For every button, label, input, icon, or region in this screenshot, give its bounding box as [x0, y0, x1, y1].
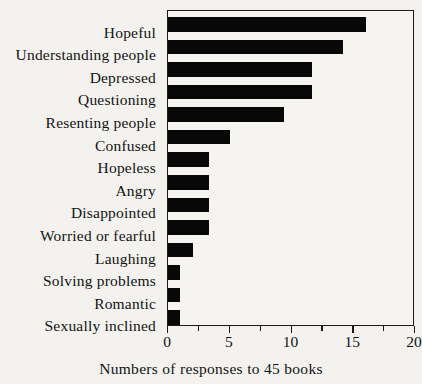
bar	[168, 175, 209, 190]
category-label: Disappointed	[71, 205, 156, 221]
x-tick-label: 5	[225, 334, 233, 350]
category-label: Questioning	[78, 92, 156, 108]
bar	[168, 198, 209, 213]
category-label: Understanding people	[16, 47, 156, 63]
category-label: Romantic	[94, 296, 156, 312]
x-tick-major	[291, 326, 292, 333]
bar	[168, 265, 180, 280]
bar	[168, 40, 343, 55]
bar	[168, 220, 209, 235]
bar	[168, 107, 284, 122]
category-label: Confused	[95, 138, 156, 154]
category-label: Sexually inclined	[45, 318, 156, 334]
x-tick-label: 15	[345, 334, 361, 350]
category-label: Hopeful	[104, 25, 156, 41]
x-axis-ticks	[167, 326, 414, 333]
bar	[168, 85, 312, 100]
category-label: Solving problems	[43, 273, 156, 289]
category-label: Hopeless	[98, 160, 156, 176]
x-tick-major	[414, 326, 415, 333]
bar-chart: Hopeful Understanding people Depressed Q…	[0, 0, 422, 384]
category-label: Depressed	[90, 70, 156, 86]
plot-area	[167, 10, 414, 326]
x-tick-label: 0	[163, 334, 171, 350]
x-tick-major	[167, 326, 168, 333]
x-axis-tick-labels: 05101520	[167, 334, 414, 354]
x-tick-minor	[383, 326, 384, 331]
x-tick-minor	[321, 326, 322, 331]
bar	[168, 130, 230, 145]
bar	[168, 243, 193, 258]
category-label: Worried or fearful	[40, 228, 156, 244]
x-tick-minor	[260, 326, 261, 331]
category-label: Angry	[115, 183, 156, 199]
category-label: Resenting people	[46, 115, 156, 131]
bar	[168, 152, 209, 167]
bar	[168, 310, 180, 325]
x-tick-label: 20	[406, 334, 422, 350]
x-axis-title: Numbers of responses to 45 books	[0, 360, 422, 378]
bar	[168, 17, 366, 32]
x-tick-major	[352, 326, 353, 333]
x-tick-major	[229, 326, 230, 333]
bar	[168, 62, 312, 77]
category-label: Laughing	[95, 251, 156, 267]
bar	[168, 288, 180, 303]
category-axis: Hopeful Understanding people Depressed Q…	[0, 10, 162, 326]
x-tick-label: 10	[283, 334, 299, 350]
x-tick-minor	[198, 326, 199, 331]
